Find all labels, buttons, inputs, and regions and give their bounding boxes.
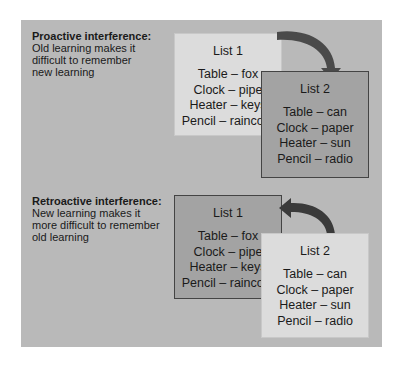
word-pair: Table – can [262, 267, 368, 283]
list-label: List 2 [262, 244, 368, 258]
proactive-desc-line: new learning [32, 66, 172, 78]
word-pair: Clock – paper [262, 121, 368, 137]
retroactive-desc-line: old learning [32, 231, 182, 243]
list-label: List 2 [262, 82, 368, 96]
proactive-list2-box: List 2 Table – can Clock – paper Heater … [261, 71, 369, 178]
proactive-title: Proactive interference: [32, 30, 172, 42]
retroactive-desc-line: New learning makes it [32, 207, 182, 219]
word-pair: Clock – paper [262, 283, 368, 299]
word-pair: Heater – sun [262, 298, 368, 314]
proactive-caption: Proactive interference: Old learning mak… [32, 30, 172, 78]
retroactive-title: Retroactive interference: [32, 195, 182, 207]
list-label: List 1 [175, 44, 281, 58]
retroactive-caption: Retroactive interference: New learning m… [32, 195, 182, 243]
proactive-desc-line: Old learning makes it [32, 42, 172, 54]
word-pair: Pencil – radio [262, 314, 368, 330]
retroactive-desc-line: more difficult to remember [32, 219, 182, 231]
proactive-desc-line: difficult to remember [32, 54, 172, 66]
word-pair: Table – can [262, 105, 368, 121]
retroactive-list2-box: List 2 Table – can Clock – paper Heater … [261, 233, 369, 338]
list-label: List 1 [175, 206, 281, 220]
word-pair: Pencil – radio [262, 152, 368, 168]
arrow-backward-icon [279, 198, 341, 238]
word-pair: Heater – sun [262, 136, 368, 152]
